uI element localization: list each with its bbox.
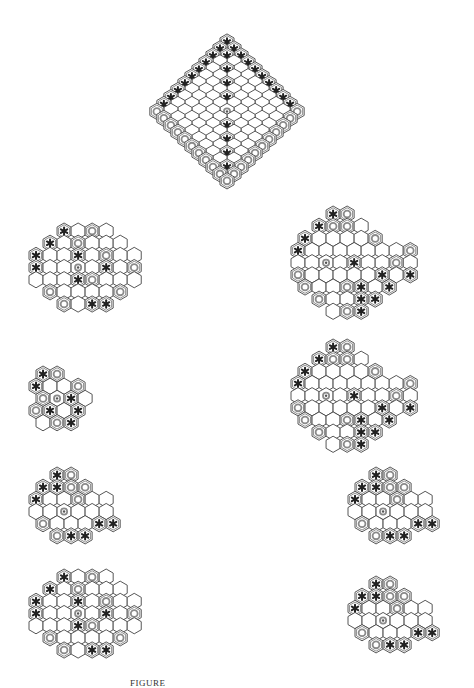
hex-cell: [43, 630, 57, 646]
hex-cell: [127, 618, 141, 634]
hex-cell: [298, 279, 312, 295]
hex-cell: [50, 528, 64, 544]
hex-cell: [369, 637, 383, 653]
hex-cell: [312, 291, 326, 307]
hex-cell: [340, 303, 354, 319]
hex-cell: [326, 436, 340, 452]
hex-cell: [127, 272, 141, 288]
hex-cell: [57, 642, 71, 658]
hex-cell: [43, 284, 57, 300]
hex-cell: [36, 415, 50, 431]
hex-cell: [298, 412, 312, 428]
hex-cell: [220, 173, 234, 189]
hex-cell: [71, 296, 85, 312]
hex-cell: [340, 436, 354, 452]
hex-cell: [29, 272, 43, 288]
hex-cell: [369, 528, 383, 544]
hex-board-main-rhombus: [100, 34, 400, 234]
hex-cell: [71, 642, 85, 658]
hex-cell: [355, 625, 369, 641]
hex-board-right-4: [347, 575, 474, 688]
hex-cell: [326, 303, 340, 319]
hex-cell: [113, 630, 127, 646]
hex-cell: [29, 618, 43, 634]
hex-cell: [355, 516, 369, 532]
hex-cell: [36, 516, 50, 532]
figure-caption: FIGURE: [130, 678, 166, 688]
hex-cell: [312, 424, 326, 440]
hex-cell: [57, 296, 71, 312]
hex-board-left-4: [28, 568, 328, 688]
hex-cell: [113, 284, 127, 300]
hex-cell: [50, 415, 64, 431]
